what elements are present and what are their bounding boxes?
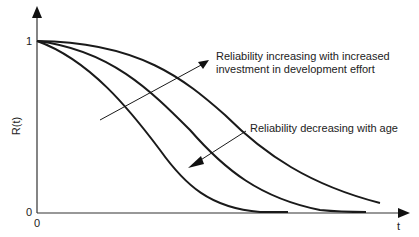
- x-axis-arrow-icon: [398, 208, 410, 218]
- y-tick-1: 1: [26, 35, 32, 48]
- x-axis: [37, 208, 410, 218]
- diagram-canvas: [0, 0, 419, 237]
- y-axis-label: R(t): [10, 114, 22, 138]
- y-axis: [32, 6, 42, 213]
- x-axis-label: t: [397, 220, 400, 233]
- arrowhead-icon: [198, 60, 209, 69]
- reliability-diagram: 1 0 0 t R(t) Reliability increasing with…: [0, 0, 419, 237]
- annotation-decreasing: Reliability decreasing with age: [250, 122, 398, 135]
- arrowhead-icon: [188, 156, 204, 168]
- annotation-increasing-line2: investment in development effort: [216, 63, 375, 76]
- y-axis-arrow-icon: [32, 6, 42, 18]
- y-tick-0: 0: [26, 206, 32, 219]
- annotation-increasing-line1: Reliability increasing with increased: [216, 50, 390, 63]
- x-tick-0: 0: [34, 217, 40, 230]
